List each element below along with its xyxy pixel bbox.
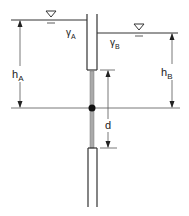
offset-d-dimension: [100, 70, 117, 148]
water-surface-triangle-icon-a: [46, 11, 56, 23]
height-a-dimension: [18, 20, 23, 108]
water-surface-triangle-icon-b: [134, 24, 144, 36]
gamma-a-label: γA: [66, 27, 76, 40]
pivot-point: [89, 105, 96, 112]
gamma-b-label: γB: [110, 37, 120, 50]
manometer-diagram: γA γB hA hB d: [0, 0, 189, 216]
offset-d-label: d: [105, 119, 111, 131]
